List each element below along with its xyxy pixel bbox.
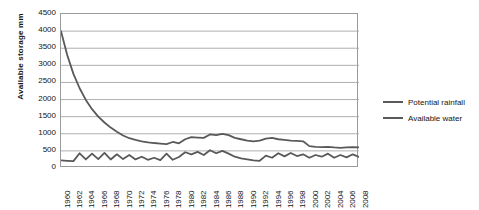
x-axis-tick-labels: 1960196219641966196819701972197419761978… — [60, 167, 358, 210]
x-tick-label: 1988 — [237, 191, 245, 208]
x-tick-label: 2004 — [337, 191, 345, 208]
y-tick-label: 2500 — [18, 77, 56, 85]
y-tick-label: 2000 — [18, 95, 56, 103]
legend-label: Potential rainfall — [408, 98, 465, 107]
x-tick-label: 1980 — [188, 191, 196, 208]
y-tick-label: 4000 — [18, 26, 56, 34]
x-tick-label: 1996 — [287, 191, 295, 208]
x-tick-label: 1964 — [88, 191, 96, 208]
x-tick-label: 1968 — [113, 191, 121, 208]
x-tick-label: 1974 — [150, 191, 158, 208]
y-tick-label: 1500 — [18, 112, 56, 120]
legend-label: Available water — [408, 114, 462, 123]
y-tick-label: 0 — [18, 163, 56, 171]
x-tick-label: 2006 — [349, 191, 357, 208]
y-tick-label: 1000 — [18, 129, 56, 137]
chart-container: Available storage mm 4500400035003000250… — [0, 0, 479, 210]
x-tick-label: 2002 — [324, 191, 332, 208]
chart-legend: Potential rainfallAvailable water — [383, 94, 479, 126]
x-tick-label: 1984 — [213, 191, 221, 208]
x-tick-label: 1998 — [299, 191, 307, 208]
y-axis-tick-labels: 450040003500300025002000150010005000 — [18, 0, 56, 210]
x-tick-label: 1962 — [76, 191, 84, 208]
x-tick-label: 1978 — [175, 191, 183, 208]
x-tick-label: 1976 — [163, 191, 171, 208]
x-tick-label: 1994 — [275, 191, 283, 208]
y-tick-label: 500 — [18, 146, 56, 154]
legend-line-icon — [383, 117, 403, 119]
x-tick-label: 1972 — [138, 191, 146, 208]
x-tick-label: 1982 — [200, 191, 208, 208]
series-lines — [61, 31, 359, 161]
x-tick-label: 1990 — [250, 191, 258, 208]
legend-item[interactable]: Potential rainfall — [383, 94, 479, 110]
x-tick-label: 1986 — [225, 191, 233, 208]
y-tick-label: 4500 — [18, 9, 56, 17]
x-tick-label: 1960 — [64, 191, 72, 208]
plot-svg — [61, 14, 359, 168]
legend-line-icon — [383, 101, 403, 103]
x-tick-label: 2008 — [362, 191, 370, 208]
x-tick-label: 1966 — [101, 191, 109, 208]
x-tick-label: 1970 — [126, 191, 134, 208]
legend-item[interactable]: Available water — [383, 110, 479, 126]
x-tick-label: 1992 — [262, 191, 270, 208]
gridlines — [61, 31, 359, 151]
y-tick-label: 3000 — [18, 60, 56, 68]
y-tick-label: 3500 — [18, 43, 56, 51]
x-tick-label: 2000 — [312, 191, 320, 208]
plot-area — [60, 13, 358, 167]
series-line — [61, 150, 359, 161]
